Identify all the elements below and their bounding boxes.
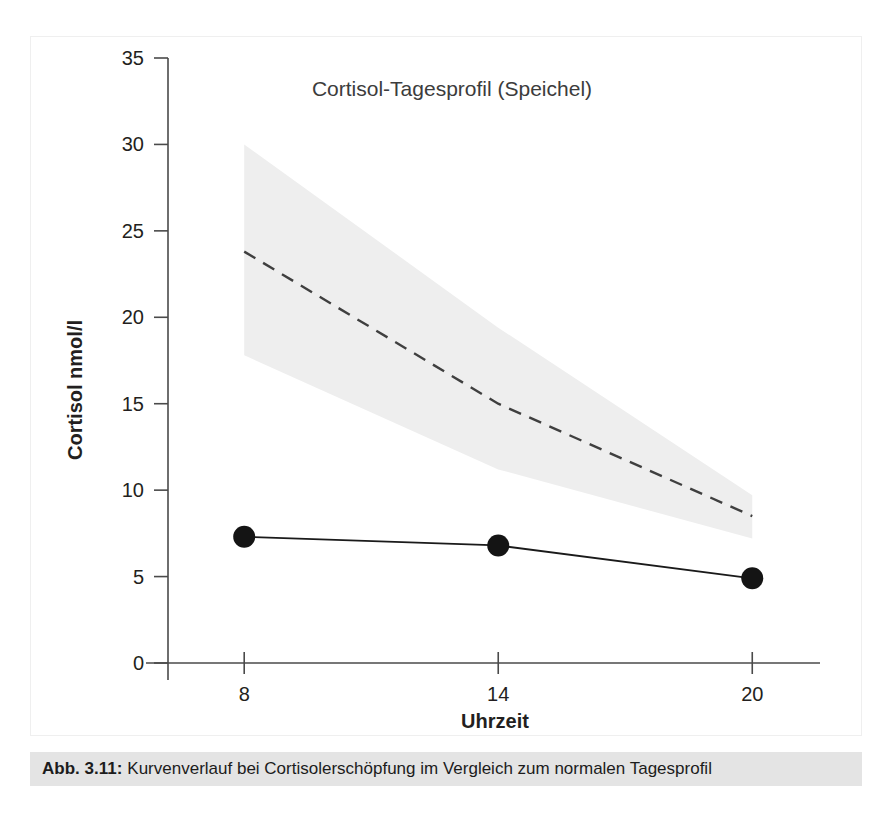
caption-number: Abb. 3.11:	[42, 759, 122, 778]
caption-text: Kurvenverlauf bei Cortisolerschöpfung im…	[127, 759, 712, 778]
figure-frame	[30, 36, 862, 736]
figure-caption-bar: Abb. 3.11:Kurvenverlauf bei Cortisolersc…	[30, 752, 862, 786]
figure-root: Cortisol-Tagesprofil (Speichel) 05101520…	[0, 0, 894, 816]
